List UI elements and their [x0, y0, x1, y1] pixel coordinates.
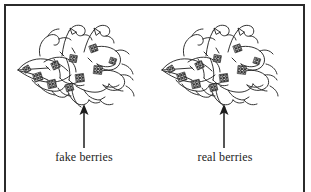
berry-cluster-illustration-left: [14, 18, 144, 110]
caption-left: fake berries: [14, 150, 154, 164]
caption-right-text: real berries: [198, 150, 253, 164]
figure-frame-left-rule: [4, 4, 6, 192]
figure-frame-top-rule: [4, 4, 305, 6]
figure-panel: fake berries: [0, 0, 311, 192]
figure-frame-right-rule: [303, 4, 305, 192]
pointer-arrow-left: [72, 102, 96, 148]
caption-right: real berries: [155, 150, 295, 164]
caption-left-text: fake berries: [55, 150, 113, 164]
berry-cluster-illustration-right: [158, 18, 288, 110]
pointer-arrow-right: [212, 102, 236, 148]
